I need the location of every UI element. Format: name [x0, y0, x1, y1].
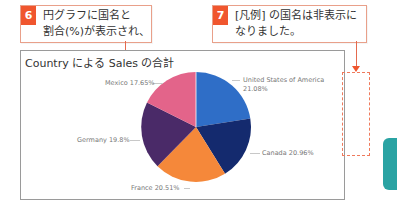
data-label-usa: United States of America 21.08%: [243, 76, 324, 94]
leader-line-france: [184, 188, 190, 189]
data-label-france: France 20.51%: [131, 184, 179, 193]
data-label-germany: Germany 19.8%: [77, 136, 130, 145]
side-tab: [383, 138, 397, 190]
data-label-usa-pct: 21.08%: [243, 85, 324, 94]
leader-line-germany: [130, 140, 140, 141]
hidden-legend-area: [342, 72, 370, 156]
leader-line-usa: [232, 80, 240, 81]
leader-line-canada: [250, 153, 260, 154]
data-label-usa-name: United States of America: [243, 76, 324, 85]
data-label-mexico: Mexico 17.65%: [105, 79, 155, 88]
callout-7-arrow-line: [356, 41, 357, 67]
data-label-canada: Canada 20.96%: [262, 149, 314, 158]
